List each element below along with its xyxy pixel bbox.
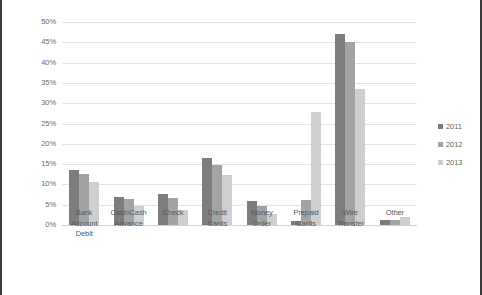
y-tick-label: 20%	[26, 139, 56, 148]
legend-item-2011[interactable]: 2011	[438, 122, 462, 131]
bar-2011	[335, 34, 345, 225]
chart-frame: 0%5%10%15%20%25%30%35%40%45%50% BankAcco…	[0, 0, 482, 295]
y-tick-label: 40%	[26, 58, 56, 67]
legend-swatch-icon	[438, 124, 443, 129]
bar-group	[62, 22, 106, 225]
bar-2013	[355, 89, 365, 225]
bar-set	[62, 22, 106, 225]
bar-group	[328, 22, 372, 225]
y-tick-label: 0%	[26, 220, 56, 229]
bar-set	[195, 22, 239, 225]
bar-set	[240, 22, 284, 225]
bar-set	[373, 22, 417, 225]
legend-swatch-icon	[438, 160, 443, 165]
legend-label: 2012	[446, 140, 462, 149]
y-tick-label: 45%	[26, 37, 56, 46]
legend-label: 2011	[446, 122, 462, 131]
y-tick-label: 35%	[26, 78, 56, 87]
bar-2011	[380, 220, 390, 225]
bar-set	[151, 22, 195, 225]
chart-legend: 201120122013	[438, 122, 462, 167]
y-tick-label: 10%	[26, 179, 56, 188]
bar-2012	[345, 42, 355, 226]
bar-2012	[390, 220, 400, 225]
legend-label: 2013	[446, 158, 462, 167]
y-tick-label: 50%	[26, 17, 56, 26]
y-tick-label: 5%	[26, 200, 56, 209]
x-tick-label-line: Other	[367, 208, 423, 219]
bar-group	[373, 22, 417, 225]
x-tick-label-line: Advance	[100, 219, 156, 230]
legend-item-2013[interactable]: 2013	[438, 158, 462, 167]
x-tick-label-line: Debit	[56, 229, 112, 240]
bar-group	[195, 22, 239, 225]
x-tick-label-line: Transfer	[322, 219, 378, 230]
y-tick-label: 25%	[26, 119, 56, 128]
bar-set	[284, 22, 328, 225]
bar-group	[151, 22, 195, 225]
bar-group	[106, 22, 150, 225]
bar-group	[284, 22, 328, 225]
legend-swatch-icon	[438, 142, 443, 147]
x-tick-label: Other	[367, 208, 423, 219]
bar-set	[328, 22, 372, 225]
plot-area	[62, 22, 417, 225]
y-tick-label: 15%	[26, 159, 56, 168]
legend-item-2012[interactable]: 2012	[438, 140, 462, 149]
y-tick-label: 30%	[26, 98, 56, 107]
bar-group	[240, 22, 284, 225]
bar-set	[106, 22, 150, 225]
